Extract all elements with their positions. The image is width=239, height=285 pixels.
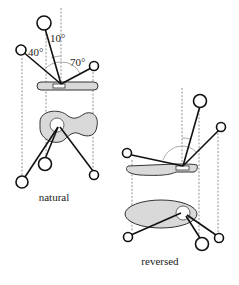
knob-top (37, 16, 51, 30)
arc-40 (44, 62, 61, 70)
link-right (61, 67, 93, 84)
rev-arc-top (182, 138, 190, 139)
rev-knob-top (194, 95, 207, 108)
angle-label-40: 40° (28, 46, 43, 58)
rev-knob-bottom-right (215, 234, 224, 243)
rev-knob-right (217, 123, 226, 132)
caption-reversed: reversed (141, 255, 179, 267)
angle-label-70: 70° (70, 56, 85, 68)
natural-top-bar (37, 82, 98, 90)
rev-link-left (127, 154, 183, 166)
rev-knob-bottom-left (124, 233, 133, 242)
knob-bottom-right (90, 171, 99, 180)
natural-group: 10° 40° 70° natural (16, 8, 99, 203)
angle-label-10: 10° (50, 32, 65, 44)
rev-knob-bottom-mid (196, 238, 209, 251)
rev-knob-left (123, 149, 132, 158)
caption-natural: natural (39, 191, 70, 203)
knob-right (90, 62, 99, 71)
reversed-group: reversed (123, 88, 226, 267)
rev-arc-left (163, 146, 182, 160)
knob-bottom-mid (39, 158, 52, 171)
link-bottom-left (23, 127, 58, 180)
knob-bottom-left (16, 176, 28, 188)
knob-left (16, 45, 26, 55)
diagram-canvas: 10° 40° 70° natural (0, 0, 239, 285)
diagram-svg: 10° 40° 70° natural (0, 0, 239, 285)
natural-top-bar-slot (53, 84, 65, 88)
